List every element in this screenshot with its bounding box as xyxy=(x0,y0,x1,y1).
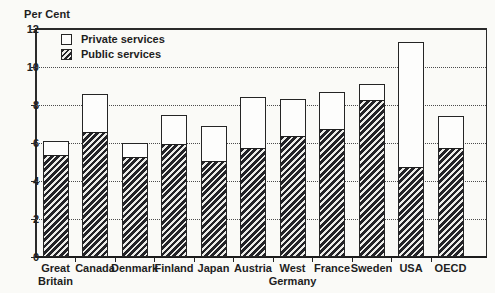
bar-sweden-public-segment xyxy=(360,100,384,256)
bar-canada-public-segment xyxy=(83,132,107,256)
y-axis-tick-4 xyxy=(31,181,36,182)
bar-finland-public-segment xyxy=(162,144,186,256)
bar-oecd-public-segment xyxy=(439,148,463,256)
legend-swatch-public-icon xyxy=(61,49,72,60)
x-axis-tick-9 xyxy=(431,257,432,262)
bar-west-germany xyxy=(280,99,306,257)
x-axis-tick-4 xyxy=(233,257,234,262)
y-axis-tick-10 xyxy=(31,67,36,68)
bar-austria-public-segment xyxy=(241,148,265,256)
legend: Private services Public services xyxy=(61,33,165,63)
y-axis-tick-8 xyxy=(31,105,36,106)
bar-france-public-segment xyxy=(320,129,344,256)
legend-label-public: Public services xyxy=(81,48,161,60)
bar-japan xyxy=(201,126,227,257)
bar-sweden xyxy=(359,84,385,257)
plot-area: Private services Public services Great B… xyxy=(36,29,486,257)
legend-label-private: Private services xyxy=(81,33,165,45)
bar-japan-public-segment xyxy=(202,161,226,256)
y-axis-tick-6 xyxy=(31,143,36,144)
bar-usa xyxy=(398,42,424,257)
legend-item-private-services: Private services xyxy=(61,33,165,45)
x-axis-tick-7 xyxy=(352,257,353,262)
bar-oecd xyxy=(438,116,464,257)
x-axis-tick-2 xyxy=(154,257,155,262)
y-axis-tick-0 xyxy=(31,257,36,258)
x-axis-tick-6 xyxy=(312,257,313,262)
plot-frame-top xyxy=(36,28,486,30)
y-axis-tick-2 xyxy=(31,219,36,220)
x-axis-tick-1 xyxy=(115,257,116,262)
bar-austria xyxy=(240,97,266,257)
x-axis-tick-3 xyxy=(194,257,195,262)
bar-finland xyxy=(161,115,187,258)
y-axis-tick-12 xyxy=(31,29,36,30)
bar-denmark-public-segment xyxy=(123,157,147,256)
bar-canada xyxy=(82,94,108,257)
bar-france xyxy=(319,92,345,257)
legend-swatch-private-icon xyxy=(61,34,72,45)
x-label-oecd: OECD xyxy=(422,262,480,275)
x-axis-tick-0 xyxy=(75,257,76,262)
x-axis-tick-8 xyxy=(391,257,392,262)
x-axis-tick-5 xyxy=(273,257,274,262)
bar-great-britain xyxy=(43,141,69,257)
bar-denmark xyxy=(122,143,148,257)
bar-great-britain-public-segment xyxy=(44,155,68,256)
bar-west-germany-public-segment xyxy=(281,136,305,256)
bar-usa-public-segment xyxy=(399,167,423,256)
plot-frame-right xyxy=(486,28,487,257)
public-private-services-bar-chart: Per Cent Private services Public service… xyxy=(0,0,495,293)
legend-item-public-services: Public services xyxy=(61,48,165,60)
y-axis-title: Per Cent xyxy=(24,8,70,20)
